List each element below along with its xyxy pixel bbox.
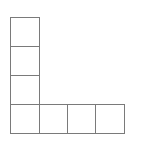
square-col1-row3 [39,104,68,134]
square-col0-row0 [10,17,40,47]
square-col3-row3 [95,104,125,134]
square-col0-row1 [10,46,40,76]
square-col0-row3 [10,104,40,134]
square-col2-row3 [67,104,96,134]
square-col0-row2 [10,75,40,105]
